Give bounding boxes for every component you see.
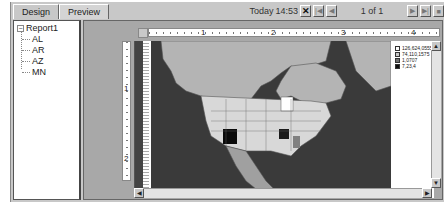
arrow-left-icon: ◀ bbox=[137, 190, 142, 196]
tree-root-label: Report1 bbox=[26, 23, 58, 33]
scroll-right-button[interactable]: ▶ bbox=[422, 188, 432, 198]
close-preview-button[interactable]: ✕ bbox=[300, 5, 311, 17]
time-label: 14:53 bbox=[275, 6, 298, 16]
view-tabs: Design Preview bbox=[13, 4, 109, 19]
horizontal-scrollbar[interactable]: ◀ ▶ bbox=[134, 188, 432, 198]
close-icon: ✕ bbox=[302, 6, 310, 16]
page-indicator: 1 of 1 bbox=[339, 6, 405, 16]
tree-item-az[interactable]: AZ bbox=[22, 56, 44, 66]
report-tree: − Report1 AL AR AZ MN bbox=[13, 20, 81, 200]
tree-item-label: MN bbox=[32, 67, 46, 77]
ruler-number: 1 bbox=[201, 28, 205, 37]
report-page: 126,624,0555 74,110,1575 1,0707 7,23,4 bbox=[134, 41, 434, 198]
scroll-left-button[interactable]: ◀ bbox=[134, 188, 144, 198]
arrow-right-icon: ▶ bbox=[425, 190, 430, 196]
last-page-button[interactable]: ▶| bbox=[420, 5, 431, 17]
tree-item-mn[interactable]: MN bbox=[22, 67, 46, 77]
arrow-down-icon: ▼ bbox=[433, 180, 439, 186]
stop-icon: ■ bbox=[436, 8, 440, 15]
prev-page-icon: ◀ bbox=[329, 7, 334, 15]
tab-preview[interactable]: Preview bbox=[59, 4, 109, 19]
ruler-corner bbox=[138, 28, 148, 38]
first-page-icon: |◀ bbox=[315, 7, 322, 15]
horizontal-ruler: 1 2 3 4 bbox=[148, 28, 440, 37]
next-page-icon: ▶ bbox=[410, 7, 415, 15]
preview-canvas: 1 2 3 4 1 2 bbox=[83, 20, 443, 200]
tree-item-al[interactable]: AL bbox=[22, 34, 43, 44]
map-legend: 126,624,0555 74,110,1575 1,0707 7,23,4 bbox=[395, 45, 433, 69]
prev-page-button[interactable]: ◀ bbox=[326, 5, 337, 17]
ruler-number: 4 bbox=[411, 28, 415, 37]
tree-root-report1[interactable]: − Report1 bbox=[17, 23, 58, 33]
vertical-scrollbar[interactable]: ▲ ▼ bbox=[431, 41, 441, 188]
next-page-button[interactable]: ▶ bbox=[407, 5, 418, 17]
vertical-ruler: 1 2 bbox=[122, 41, 131, 181]
first-page-button[interactable]: |◀ bbox=[313, 5, 324, 17]
scroll-up-button[interactable]: ▲ bbox=[431, 41, 441, 51]
date-label: Today bbox=[249, 6, 273, 16]
preview-toolbar: Today 14:53 ✕ |◀ ◀ 1 of 1 ▶ ▶| ■ bbox=[249, 3, 444, 19]
report-viewer-window: Design Preview Today 14:53 ✕ |◀ ◀ 1 of 1… bbox=[10, 2, 444, 202]
ruler-number: 2 bbox=[271, 28, 275, 37]
tree-item-label: AR bbox=[32, 45, 45, 55]
stop-button[interactable]: ■ bbox=[433, 5, 444, 17]
arrow-up-icon: ▲ bbox=[433, 43, 439, 49]
legend-item: 7,23,4 bbox=[395, 63, 433, 69]
ruler-number: 2 bbox=[124, 154, 128, 163]
scroll-down-button[interactable]: ▼ bbox=[431, 178, 441, 188]
tree-item-label: AZ bbox=[32, 56, 44, 66]
ruler-number: 3 bbox=[341, 28, 345, 37]
tree-item-label: AL bbox=[32, 34, 43, 44]
tab-design[interactable]: Design bbox=[13, 4, 59, 19]
collapse-icon[interactable]: − bbox=[17, 25, 24, 32]
last-page-icon: ▶| bbox=[422, 7, 429, 15]
ruler-number: 1 bbox=[124, 84, 128, 93]
tree-item-ar[interactable]: AR bbox=[22, 45, 45, 55]
choropleth-map bbox=[151, 41, 391, 198]
north-america-map-icon bbox=[151, 41, 391, 198]
